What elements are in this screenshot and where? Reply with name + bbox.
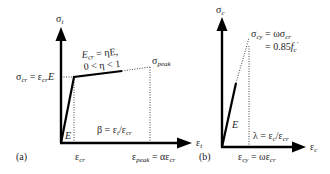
lambda-ratio-label: λ = εc/εcr	[253, 130, 289, 143]
beta-ratio-label: β = εt/εcr	[97, 124, 132, 137]
yield-extension-guide	[236, 38, 249, 83]
peak-extension-guide	[122, 67, 150, 71]
peak-stress-label: σpeak	[152, 55, 171, 68]
y-axis-b-label: σc	[216, 4, 225, 17]
elastic-modulus-b-label: E	[231, 119, 238, 130]
panel-a-label: (a)	[16, 151, 27, 163]
crack-strain-tick-label: εcr	[75, 151, 85, 164]
elastic-modulus-label: E	[64, 130, 71, 141]
y-axis-label: σt	[56, 13, 64, 26]
stress-strain-diagram: σt εt σcr = εcrE Ecr = ηE, 0 < η < 1 σpe…	[0, 0, 330, 174]
panel-b-compression: σc εc σcy = ωσcr = 0.85fc′ E λ = εc/εcr …	[199, 4, 318, 164]
panel-a-tension: σt εt σcr = εcrE Ecr = ηE, 0 < η < 1 σpe…	[16, 13, 203, 164]
yield-strain-tick-label: εcy = ωεcr	[238, 151, 276, 164]
x-axis-b-arrow-icon	[292, 142, 306, 153]
x-axis-label: εt	[196, 137, 203, 150]
y-axis-b-arrow-icon	[217, 17, 228, 31]
panel-b-label: (b)	[199, 151, 211, 163]
peak-strain-tick-label: εpeak = αεcr	[132, 151, 176, 164]
yield-stress-value-label: = 0.85fc′	[265, 40, 299, 54]
yield-stress-label: σcy = ωσcr	[251, 28, 291, 41]
x-axis-b-label: εc	[310, 141, 318, 154]
x-axis-arrow-icon	[177, 138, 192, 149]
crack-stress-label: σcr = εcrE	[16, 71, 54, 84]
eta-range-label: 0 < η < 1	[83, 58, 120, 72]
compression-curve	[222, 83, 236, 147]
y-axis-arrow-icon	[56, 27, 67, 41]
